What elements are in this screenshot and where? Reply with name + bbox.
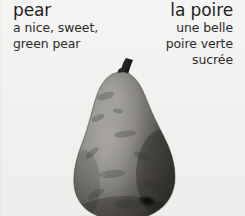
english-text-block: pear a nice, sweet, green pear (13, 1, 98, 52)
french-text-block: la poire une belle poire verte sucrée (166, 1, 233, 68)
french-phrase-line-1: une belle (166, 20, 233, 36)
french-phrase-line-2: poire verte (166, 36, 233, 52)
flashcard: pear a nice, sweet, green pear la poire … (0, 0, 245, 216)
french-headword: la poire (166, 1, 233, 20)
french-phrase-line-3: sucrée (166, 52, 233, 68)
pear-illustration-svg (62, 56, 184, 216)
english-headword: pear (13, 1, 98, 20)
pear-body (62, 56, 184, 216)
english-phrase-line-1: a nice, sweet, (13, 20, 98, 36)
english-phrase-line-2: green pear (13, 36, 98, 52)
pear-photo (62, 56, 184, 216)
